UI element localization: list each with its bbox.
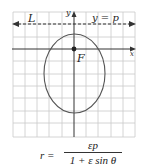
formula-denominator: 1 + ε sin θ xyxy=(62,154,124,166)
x-axis-label: x xyxy=(130,51,134,58)
directrix-equation-label: y = p xyxy=(92,13,119,23)
fraction-bar xyxy=(64,152,122,153)
directrix-label: L xyxy=(28,13,35,24)
y-axis-label: y xyxy=(66,9,71,17)
focus-point xyxy=(72,47,77,52)
formula-lhs: r = xyxy=(40,149,54,161)
formula-fraction: εp 1 + ε sin θ xyxy=(62,139,124,166)
polar-ellipse-diagram xyxy=(0,0,143,140)
polar-equation: r = εp 1 + ε sin θ xyxy=(0,138,143,168)
focus-label: F xyxy=(77,53,85,64)
formula-numerator: εp xyxy=(62,139,124,151)
